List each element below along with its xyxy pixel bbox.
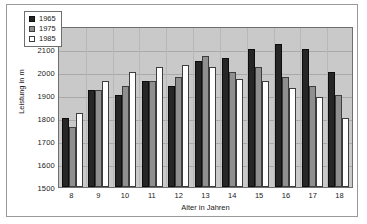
bar-group xyxy=(139,28,166,187)
bar xyxy=(222,58,229,187)
bar xyxy=(275,44,282,187)
bar-group xyxy=(192,28,219,187)
bar xyxy=(316,97,323,187)
chart-figure-frame: Leistung in m 22002100200019001800170016… xyxy=(6,4,358,217)
legend-label: 1985 xyxy=(39,35,56,43)
x-axis-tick: 8 xyxy=(58,191,85,200)
bar xyxy=(202,56,209,187)
x-axis-tick: 16 xyxy=(273,191,300,200)
legend-swatch-icon xyxy=(29,36,35,42)
legend-item: 1975 xyxy=(29,25,56,33)
legend-label: 1975 xyxy=(39,25,56,33)
bar xyxy=(309,86,316,187)
bar xyxy=(195,61,202,188)
bar xyxy=(248,49,255,187)
bar xyxy=(62,118,69,187)
y-axis-tick: 1900 xyxy=(9,92,55,101)
bar xyxy=(122,86,129,187)
bar xyxy=(335,95,342,187)
bar xyxy=(88,90,95,187)
bar xyxy=(115,95,122,187)
bar-group xyxy=(325,28,352,187)
bar xyxy=(149,81,156,187)
y-axis-tick: 2000 xyxy=(9,69,55,78)
y-axis-tick-labels: 22002100200019001800170016001500 xyxy=(7,27,55,188)
bar-group xyxy=(299,28,326,187)
bar-group xyxy=(86,28,113,187)
y-axis-tick: 1700 xyxy=(9,138,55,147)
bar xyxy=(175,77,182,187)
bar xyxy=(255,67,262,187)
bar xyxy=(102,81,109,187)
bar xyxy=(282,77,289,187)
bar xyxy=(142,81,149,187)
x-axis-tick: 18 xyxy=(326,191,353,200)
bar xyxy=(302,49,309,187)
bar xyxy=(229,72,236,187)
x-axis-tick: 17 xyxy=(299,191,326,200)
bar xyxy=(328,72,335,187)
chart-legend: 196519751985 xyxy=(24,11,62,47)
x-axis-tick: 14 xyxy=(219,191,246,200)
bar-group xyxy=(219,28,246,187)
x-axis-tick: 15 xyxy=(246,191,273,200)
bar xyxy=(95,90,102,187)
bar xyxy=(129,72,136,187)
y-axis-tick: 1500 xyxy=(9,184,55,193)
bar xyxy=(76,113,83,187)
bar-group xyxy=(272,28,299,187)
bar-group xyxy=(245,28,272,187)
bar xyxy=(236,79,243,187)
legend-swatch-icon xyxy=(29,16,35,22)
bar xyxy=(262,81,269,187)
bar-group xyxy=(112,28,139,187)
bar xyxy=(182,65,189,187)
x-axis-tick: 11 xyxy=(138,191,165,200)
y-axis-tick: 1600 xyxy=(9,161,55,170)
bar xyxy=(289,88,296,187)
bar xyxy=(156,67,163,187)
x-axis-tick: 10 xyxy=(112,191,139,200)
bar-group xyxy=(59,28,86,187)
x-axis-tick-labels: 89101112131415161718 xyxy=(58,191,353,200)
x-axis-tick: 13 xyxy=(192,191,219,200)
x-axis-title: Alter in Jahren xyxy=(58,203,353,212)
bar xyxy=(342,118,349,187)
bar xyxy=(168,86,175,187)
plot-area xyxy=(58,27,353,188)
legend-item: 1965 xyxy=(29,15,56,23)
bar xyxy=(69,127,76,187)
x-axis-tick: 9 xyxy=(85,191,112,200)
bar-group xyxy=(166,28,193,187)
legend-label: 1965 xyxy=(39,15,56,23)
bar-groups xyxy=(59,28,352,187)
y-axis-tick: 1800 xyxy=(9,115,55,124)
bar xyxy=(209,67,216,187)
legend-swatch-icon xyxy=(29,26,35,32)
legend-item: 1985 xyxy=(29,35,56,43)
x-axis-tick: 12 xyxy=(165,191,192,200)
